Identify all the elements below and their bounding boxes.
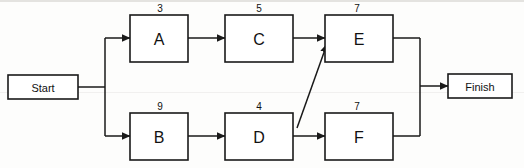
node-finish-label: Finish xyxy=(465,81,494,93)
node-e[interactable]: E xyxy=(325,15,393,62)
node-d-duration: 4 xyxy=(256,101,262,112)
node-e-label: E xyxy=(354,31,365,48)
node-start[interactable]: Start xyxy=(8,75,78,99)
node-f-label: F xyxy=(354,129,364,146)
node-c-duration: 5 xyxy=(256,3,262,14)
node-a[interactable]: A xyxy=(130,15,188,62)
node-e-duration: 7 xyxy=(354,3,360,14)
node-d-label: D xyxy=(253,129,265,146)
node-c[interactable]: C xyxy=(225,15,293,62)
node-a-label: A xyxy=(154,31,165,48)
node-d[interactable]: D xyxy=(225,113,293,160)
network-diagram-canvas: Start Finish A 3 C 5 E 7 B 9 D xyxy=(0,0,524,168)
node-b[interactable]: B xyxy=(130,113,188,160)
node-finish[interactable]: Finish xyxy=(448,74,512,98)
node-b-label: B xyxy=(154,129,165,146)
node-start-label: Start xyxy=(31,82,54,94)
node-f-duration: 7 xyxy=(354,101,360,112)
edge-d-e xyxy=(297,44,327,128)
node-f[interactable]: F xyxy=(325,113,393,160)
node-b-duration: 9 xyxy=(157,101,163,112)
network-diagram: Start Finish A 3 C 5 E 7 B 9 D xyxy=(0,0,524,168)
node-c-label: C xyxy=(253,31,265,48)
node-a-duration: 3 xyxy=(157,3,163,14)
